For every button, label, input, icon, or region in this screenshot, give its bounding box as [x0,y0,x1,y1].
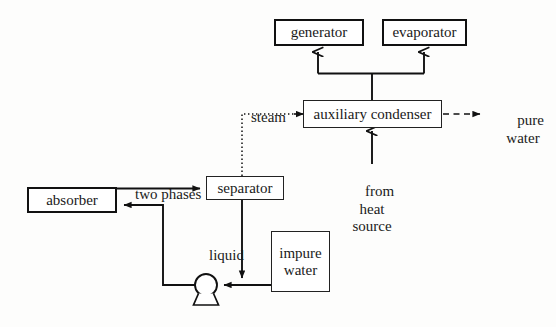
node-auxiliary-condenser[interactable]: auxiliary condenser [303,100,442,128]
node-generator[interactable]: generator [274,19,364,46]
label-pure-water-text: pure water [506,112,543,145]
node-evaporator[interactable]: evaporator [382,19,467,46]
connector-condenser-to-manifold [318,74,424,101]
node-impure-water-label: impure water [279,245,322,279]
label-two-phases: two phases [120,169,198,221]
label-liquid: liquid [194,230,238,282]
node-generator-label: generator [291,24,348,41]
node-auxiliary-condenser-label: auxiliary condenser [314,106,432,123]
label-liquid-text: liquid [209,247,244,263]
label-steam: steam [236,92,286,144]
label-two-phases-text: two phases [135,186,201,202]
label-pure-water: pure water [494,95,552,165]
node-separator[interactable]: separator [206,176,284,200]
label-from-heat-source-text: from heat source [352,183,394,234]
label-steam-text: steam [251,109,286,125]
process-flow-diagram: generator evaporator auxiliary condenser… [0,0,556,327]
label-from-heat-source: from heat source [343,166,401,253]
node-impure-water[interactable]: impure water [271,231,330,292]
node-separator-label: separator [218,180,273,197]
node-evaporator-label: evaporator [392,24,456,41]
node-absorber-label: absorber [46,192,98,209]
node-absorber[interactable]: absorber [27,187,117,213]
